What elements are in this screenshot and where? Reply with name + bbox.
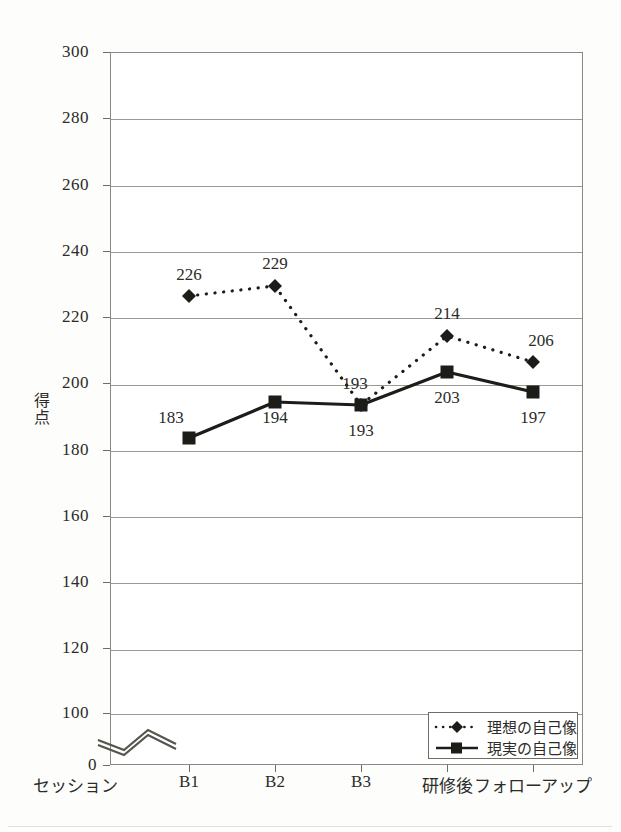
gridline-240 [111,252,582,253]
point-label-ideal-followup: 206 [528,331,554,351]
xtick-mark-followup [533,765,534,772]
x-axis-title: セッション [33,772,118,797]
ytick-mark-140 [103,582,110,583]
gridline-220 [111,318,582,319]
xtick-label-followup: フォローアップ [473,772,593,797]
ytick-mark-260 [103,185,110,186]
gridline-260 [111,186,582,187]
legend-label-ideal: 理想の自己像 [487,716,577,737]
gridline-180 [111,451,582,452]
point-label-ideal-b1: 226 [176,265,202,285]
xtick-label-b1: B1 [159,772,219,792]
point-label-ideal-b3: 193 [342,374,368,394]
legend-key-real [434,740,480,756]
square-icon [451,742,462,753]
y-axis-title-text: 得点 [34,392,50,426]
gridline-160 [111,517,582,518]
axis-break-icon [96,712,182,760]
xtick-mark-b2 [275,765,276,772]
gridline-140 [111,583,582,584]
y-axis-title: 得点 [31,392,53,426]
point-label-real-b3: 193 [348,421,374,441]
ytick-mark-240 [103,251,110,252]
xtick-mark-b3 [361,765,362,772]
legend-item-real: 現実の自己像 [434,737,572,758]
point-label-ideal-kenshugo: 214 [434,304,460,324]
legend-key-ideal [434,719,480,735]
legend-item-ideal: 理想の自己像 [434,716,572,737]
ytick-mark-200 [103,383,110,384]
diamond-icon [451,721,463,733]
ytick-mark-180 [103,450,110,451]
point-label-real-b1: 183 [158,408,184,428]
ytick-mark-300 [103,52,110,53]
xtick-label-b3: B3 [331,772,391,792]
xtick-mark-b1 [189,765,190,772]
ytick-mark-0 [103,765,110,766]
chart-figure: 300 280 260 240 220 200 180 160 140 120 … [0,0,621,832]
point-label-real-followup: 197 [520,408,546,428]
legend-label-real: 現実の自己像 [487,737,577,758]
xtick-mark-kenshugo [447,765,448,772]
ytick-mark-160 [103,516,110,517]
point-label-real-kenshugo: 203 [434,388,460,408]
ytick-mark-220 [103,317,110,318]
chart-legend: 理想の自己像 現実の自己像 [428,712,578,759]
gridline-120 [111,650,582,651]
ytick-mark-280 [103,118,110,119]
ytick-mark-120 [103,648,110,649]
xtick-label-b2: B2 [245,772,305,792]
gridline-280 [111,119,582,120]
page-bottom-rule [8,826,612,827]
point-label-ideal-b2: 229 [262,254,288,274]
point-label-real-b2: 194 [262,408,288,428]
